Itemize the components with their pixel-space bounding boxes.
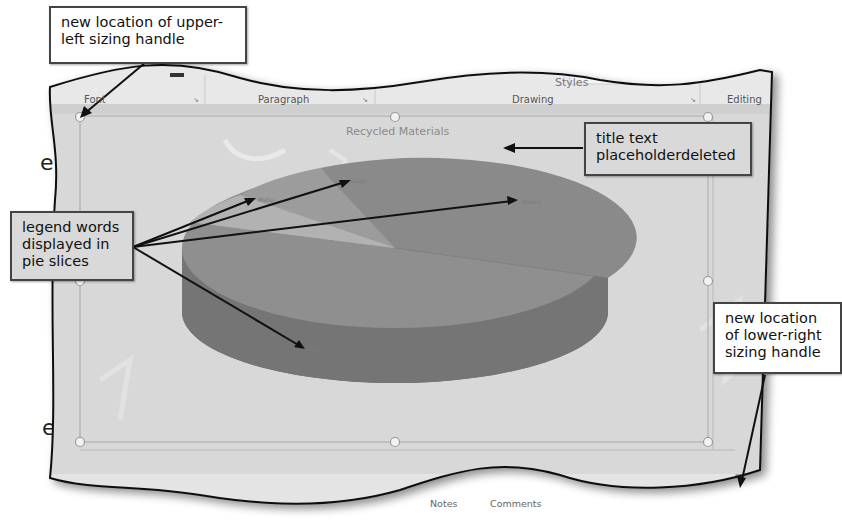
styles-button[interactable]: Styles <box>555 76 588 89</box>
drawing-dialog-launcher-icon[interactable]: ↘ <box>690 96 696 104</box>
callout-text: legend words <box>22 219 122 236</box>
notes-button[interactable]: Notes <box>430 498 457 509</box>
slice-label-plastic: Plastic <box>522 198 541 205</box>
callout-text: displayed in <box>22 236 122 253</box>
slice-label-metal: Metal <box>258 196 275 203</box>
font-dialog-launcher-icon[interactable]: ↘ <box>193 96 199 104</box>
ribbon-group-editing[interactable]: Editing <box>727 94 762 105</box>
ribbon-group-paragraph[interactable]: Paragraph <box>258 94 309 105</box>
callout-title-deleted: title text placeholderdeleted <box>584 122 752 176</box>
ribbon-group-font[interactable]: Font <box>84 94 106 105</box>
callout-text: placeholderdeleted <box>596 147 740 164</box>
slice-label-glass: Glass <box>350 177 366 184</box>
callout-text: new location of upper- <box>61 14 235 31</box>
callout-text: left sizing handle <box>61 31 235 48</box>
callout-legend-words: legend words displayed in pie slices <box>10 211 134 281</box>
callout-text: title text <box>596 130 740 147</box>
callout-text: of lower-right <box>725 327 830 344</box>
chart-title[interactable]: Recycled Materials <box>346 125 449 138</box>
callout-text: pie slices <box>22 253 122 270</box>
slice-label-paper: Paper <box>308 345 325 352</box>
callout-lower-right-handle: new location of lower-right sizing handl… <box>713 302 842 374</box>
callout-text: sizing handle <box>725 344 830 361</box>
ribbon-group-drawing[interactable]: Drawing <box>512 94 554 105</box>
paragraph-dialog-launcher-icon[interactable]: ↘ <box>362 96 368 104</box>
callout-text: new location <box>725 310 830 327</box>
callout-upper-left-handle: new location of upper- left sizing handl… <box>49 6 247 64</box>
comments-button[interactable]: Comments <box>490 498 542 509</box>
